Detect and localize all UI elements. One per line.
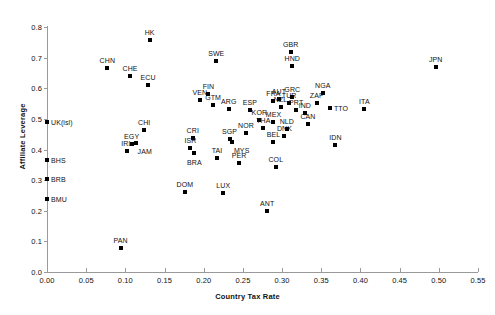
data-point-marker[interactable] — [244, 131, 248, 135]
x-tick-label: 0.40 — [353, 276, 368, 285]
x-tick-label: 0.10 — [118, 276, 133, 285]
x-tick-label: 0.35 — [314, 276, 329, 285]
x-tick-mark — [478, 268, 479, 272]
data-point-marker[interactable] — [328, 106, 332, 110]
data-point-marker[interactable] — [227, 107, 231, 111]
data-point-label: FIN — [203, 83, 215, 90]
x-tick-mark — [204, 268, 205, 272]
data-point-marker[interactable] — [188, 146, 192, 150]
x-tick-mark — [439, 268, 440, 272]
x-tick-label: 0.45 — [392, 276, 407, 285]
data-point-marker[interactable] — [294, 108, 298, 112]
data-point-marker[interactable] — [214, 59, 218, 63]
data-point-marker[interactable] — [274, 165, 278, 169]
data-point-label: GBR — [283, 41, 298, 48]
data-point-marker[interactable] — [198, 98, 202, 102]
x-tick-mark — [360, 268, 361, 272]
data-point-label: IRL — [121, 140, 132, 147]
x-tick-label: 0.20 — [196, 276, 211, 285]
data-point-label: HND — [285, 55, 300, 62]
y-tick-label: 0.8 — [22, 23, 42, 32]
data-point-label: JPN — [429, 56, 443, 63]
data-point-marker[interactable] — [45, 177, 49, 181]
data-point-marker[interactable] — [282, 134, 286, 138]
data-point-label: BEL — [267, 131, 281, 138]
x-axis-title: Country Tax Rate — [0, 292, 495, 301]
x-tick-mark — [400, 268, 401, 272]
data-point-label: IDN — [329, 134, 341, 141]
data-point-marker[interactable] — [321, 91, 325, 95]
data-point-marker[interactable] — [290, 95, 294, 99]
data-point-label: BRA — [187, 159, 202, 166]
data-point-marker[interactable] — [434, 65, 438, 69]
data-point-label: BMU — [51, 195, 67, 202]
data-point-label: CHE — [123, 65, 138, 72]
data-point-label: PAN — [114, 237, 128, 244]
data-point-label: ANT — [260, 200, 274, 207]
data-point-label: JAM — [138, 148, 152, 155]
data-point-label: SGP — [222, 128, 237, 135]
data-point-marker[interactable] — [148, 38, 152, 42]
y-tick-label: 0.0 — [22, 268, 42, 277]
data-point-label: BRB — [51, 175, 66, 182]
data-point-marker[interactable] — [221, 191, 225, 195]
data-point-label: HK — [145, 29, 155, 36]
x-tick-mark — [243, 268, 244, 272]
data-point-marker[interactable] — [119, 246, 123, 250]
y-tick-label: 0.2 — [22, 206, 42, 215]
data-point-marker[interactable] — [271, 140, 275, 144]
data-point-label: ITA — [359, 98, 370, 105]
data-point-label: NOR — [238, 122, 254, 129]
data-point-marker[interactable] — [306, 122, 310, 126]
data-point-label: CRI — [187, 127, 199, 134]
data-point-marker[interactable] — [333, 143, 337, 147]
data-point-marker[interactable] — [289, 50, 293, 54]
data-point-marker[interactable] — [125, 149, 129, 153]
x-tick-label: 0.00 — [40, 276, 55, 285]
data-point-marker[interactable] — [271, 120, 275, 124]
x-tick-mark — [86, 268, 87, 272]
x-tick-label: 0.55 — [471, 276, 486, 285]
y-tick-mark — [44, 88, 48, 89]
data-point-label: NGA — [315, 82, 330, 89]
data-point-label: CHI — [138, 119, 150, 126]
data-point-marker[interactable] — [134, 141, 138, 145]
data-point-marker[interactable] — [45, 120, 49, 124]
data-point-label: LUX — [216, 182, 230, 189]
data-point-marker[interactable] — [128, 74, 132, 78]
y-tick-mark — [44, 150, 48, 151]
data-point-marker[interactable] — [142, 128, 146, 132]
data-point-label: GRC — [284, 86, 300, 93]
data-point-marker[interactable] — [105, 66, 109, 70]
data-point-marker[interactable] — [285, 127, 289, 131]
data-point-marker[interactable] — [215, 156, 219, 160]
data-point-marker[interactable] — [265, 209, 269, 213]
data-point-label: TTO — [334, 105, 348, 112]
x-tick-label: 0.25 — [235, 276, 250, 285]
data-point-marker[interactable] — [290, 64, 294, 68]
data-point-marker[interactable] — [183, 190, 187, 194]
x-tick-label: 0.30 — [275, 276, 290, 285]
x-axis-line — [47, 272, 478, 273]
data-point-marker[interactable] — [211, 103, 215, 107]
data-point-marker[interactable] — [192, 151, 196, 155]
data-point-marker[interactable] — [315, 101, 319, 105]
data-point-marker[interactable] — [45, 158, 49, 162]
data-point-marker[interactable] — [45, 197, 49, 201]
x-tick-mark — [165, 268, 166, 272]
data-point-label: COL — [268, 156, 283, 163]
x-tick-mark — [282, 268, 283, 272]
data-point-marker[interactable] — [237, 161, 241, 165]
data-point-label: SWE — [208, 50, 224, 57]
plot-area: 0.000.050.100.150.200.250.300.350.400.45… — [0, 0, 495, 315]
data-point-label: CHN — [100, 57, 115, 64]
data-point-marker[interactable] — [279, 105, 283, 109]
data-point-marker[interactable] — [230, 140, 234, 144]
data-point-marker[interactable] — [362, 107, 366, 111]
y-axis-title: Affiliate Leverage — [18, 67, 27, 207]
data-point-marker[interactable] — [261, 126, 265, 130]
data-point-label: THA — [256, 117, 270, 124]
y-tick-mark — [44, 211, 48, 212]
data-point-marker[interactable] — [146, 83, 150, 87]
data-point-label: TAI — [212, 147, 223, 154]
